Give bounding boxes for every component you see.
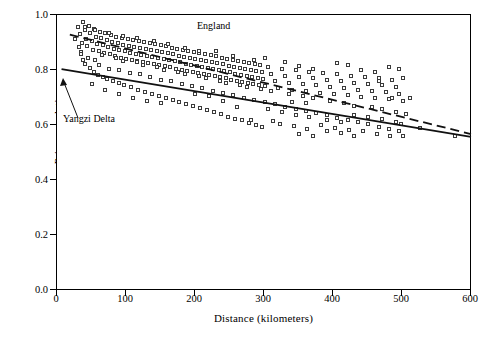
data-point (197, 49, 201, 53)
data-point (207, 94, 211, 98)
data-point (325, 118, 329, 122)
data-point (304, 101, 308, 105)
data-point (375, 132, 379, 136)
data-point (401, 134, 405, 138)
data-point (292, 124, 296, 128)
data-point (178, 60, 182, 64)
data-point (182, 55, 186, 59)
data-point (122, 83, 126, 87)
data-point (290, 100, 294, 104)
data-point (363, 75, 367, 79)
y-tick-label: 0.6 (4, 119, 48, 130)
data-point (98, 30, 102, 34)
data-point (130, 58, 134, 62)
data-point (186, 49, 190, 53)
data-point (129, 85, 133, 89)
data-point (297, 64, 301, 68)
data-point (211, 89, 215, 93)
data-point (145, 99, 149, 103)
data-point (81, 20, 85, 24)
data-point (325, 113, 329, 117)
data-point (171, 52, 175, 56)
data-point (135, 36, 139, 40)
x-tick-mark (194, 290, 195, 296)
plot-area (56, 14, 471, 290)
data-point (239, 73, 243, 77)
data-point (205, 108, 209, 112)
data-point (352, 134, 356, 138)
data-point (251, 82, 255, 86)
data-point (401, 76, 405, 80)
data-point (318, 91, 322, 95)
data-point (177, 54, 181, 58)
x-tick-mark (470, 290, 471, 296)
y-tick-label: 1.0 (4, 9, 48, 20)
data-point (335, 116, 339, 120)
data-point (225, 57, 229, 61)
x-tick-mark (332, 290, 333, 296)
data-point (347, 128, 351, 132)
data-point (142, 40, 146, 44)
data-point (294, 107, 298, 111)
chart-figure: 1.0 0.8 0.6 0.4 0.2 0.0 0 100 200 300 40… (0, 0, 493, 338)
data-point (259, 87, 263, 91)
data-point (231, 54, 235, 58)
data-point (106, 45, 110, 49)
data-point (218, 79, 222, 83)
data-point (245, 85, 249, 89)
data-point (380, 107, 384, 111)
data-point (352, 81, 356, 85)
data-point (100, 53, 104, 57)
data-point (200, 86, 204, 90)
data-point (114, 56, 118, 60)
data-point (263, 84, 267, 88)
data-point (123, 49, 127, 53)
data-point (366, 82, 370, 86)
data-point (339, 79, 343, 83)
data-point (171, 98, 175, 102)
data-point (346, 63, 350, 67)
data-point (370, 89, 374, 93)
data-point (359, 95, 363, 99)
data-point (93, 58, 97, 62)
data-point (212, 110, 216, 114)
data-point (276, 86, 280, 90)
data-point (110, 40, 114, 44)
data-point (349, 74, 353, 78)
data-point (121, 34, 125, 38)
data-point (283, 74, 287, 78)
data-point (159, 43, 163, 47)
data-point (390, 96, 394, 100)
x-axis-title: Distance (kilometers) (56, 312, 471, 324)
data-point (135, 60, 139, 64)
data-point (155, 49, 159, 53)
data-point (305, 127, 309, 131)
data-point (221, 91, 225, 95)
data-point (260, 70, 264, 74)
data-point (394, 110, 398, 114)
data-point (193, 92, 197, 96)
data-point (314, 111, 318, 115)
data-point (193, 57, 197, 61)
data-point (112, 47, 116, 51)
data-point (247, 61, 251, 65)
data-point (269, 89, 273, 93)
data-point (108, 52, 112, 56)
data-point (83, 25, 87, 29)
data-point (145, 54, 149, 58)
data-point (221, 62, 225, 66)
data-point (356, 120, 360, 124)
data-point (85, 44, 89, 48)
data-point (134, 52, 138, 56)
data-point (294, 68, 298, 72)
data-point (314, 83, 318, 87)
data-point (249, 68, 253, 72)
data-point (301, 82, 305, 86)
data-point (79, 52, 83, 56)
data-point (114, 35, 118, 39)
data-point (167, 58, 171, 62)
data-point (231, 58, 235, 62)
data-point (211, 67, 215, 71)
data-point (127, 44, 131, 48)
x-tick-mark (263, 290, 264, 296)
